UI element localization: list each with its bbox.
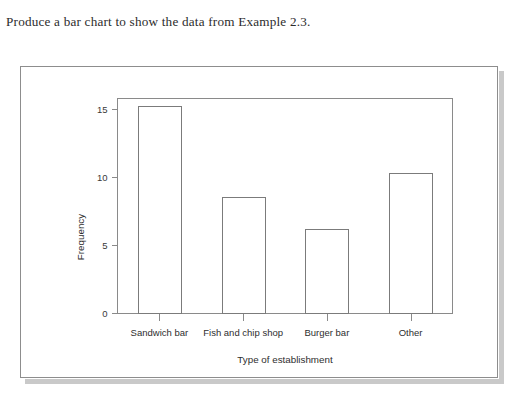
- question-text: Produce a bar chart to show the data fro…: [6, 14, 311, 30]
- figure-panel: [20, 66, 498, 378]
- figure-panel-shadow-right: [499, 71, 504, 383]
- figure-panel-shadow-bottom: [25, 379, 504, 384]
